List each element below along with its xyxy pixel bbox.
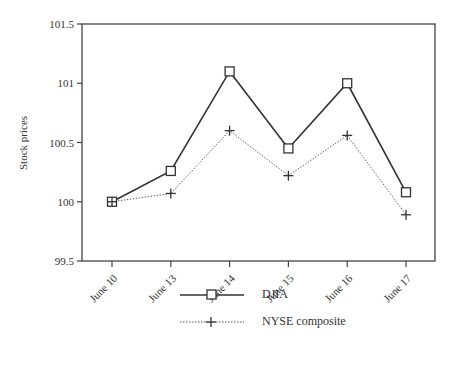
legend-label-nyse: NYSE composite <box>262 314 346 329</box>
square-marker-icon <box>284 144 293 153</box>
y-tick-label: 101.5 <box>49 18 74 30</box>
plot-frame <box>82 24 435 261</box>
y-axis-label: Stock prices <box>17 116 29 170</box>
y-tick-label: 99.5 <box>55 255 75 267</box>
y-tick-label: 100.5 <box>49 137 74 149</box>
square-marker-icon <box>225 67 234 76</box>
legend-plus-marker-icon <box>178 312 248 332</box>
series-djia <box>108 67 411 206</box>
square-marker-icon <box>343 79 352 88</box>
square-marker-icon <box>402 188 411 197</box>
legend-item-djia: DJIA <box>178 285 378 305</box>
series-nyse-composite <box>107 126 411 220</box>
legend-item-nyse: NYSE composite <box>178 312 378 332</box>
y-tick-label: 101 <box>58 77 75 89</box>
x-tick-label: June 13 <box>146 272 179 305</box>
legend: DJIA NYSE composite <box>178 285 378 355</box>
x-tick-label: June 10 <box>87 272 120 305</box>
square-marker-icon <box>166 166 175 175</box>
legend-label-djia: DJIA <box>262 287 288 302</box>
y-tick-label: 100 <box>58 196 75 208</box>
legend-square-marker-icon <box>178 285 248 305</box>
x-tick-label: June 17 <box>381 272 414 305</box>
